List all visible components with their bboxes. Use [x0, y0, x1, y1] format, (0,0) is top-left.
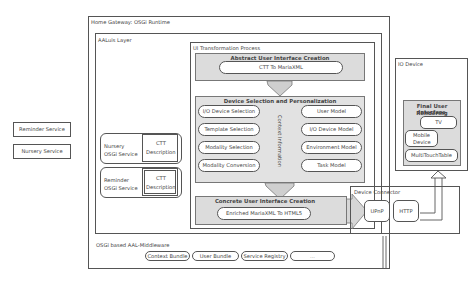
modality-conversion-step: Modality Conversion — [198, 159, 260, 172]
more-bundles[interactable]: ... — [290, 251, 335, 261]
io-device-selection-step: I/O Device Selection — [198, 105, 260, 118]
device-connector-title: Device Connector — [354, 189, 400, 195]
device-selection-title: Device Selection and Personalization — [195, 98, 365, 104]
task-model: Task Model — [301, 159, 362, 172]
concrete-ui-title: Concrete User Interface Creation — [195, 198, 335, 204]
user-bundle[interactable]: User Bundle — [192, 251, 239, 261]
template-selection-step: Template Selection — [198, 123, 260, 136]
io-device-model: I/O Device Model — [301, 123, 362, 136]
context-bundle[interactable]: Context Bundle — [145, 251, 190, 261]
context-information-label: Context Information — [277, 115, 283, 165]
environment-model: Environment Model — [301, 141, 362, 154]
middleware-title: OSGi based AAL-Middleware — [96, 242, 169, 248]
multitouch-table-device: MultiTouchTable — [405, 149, 458, 162]
io-device-title: IO Device — [398, 61, 423, 67]
mobile-device-label-1: Mobile — [413, 132, 430, 138]
tv-device: TV — [420, 116, 457, 129]
upnp-protocol: UPnP — [364, 200, 390, 222]
enriched-mariaxml-step: Enriched MariaXML To HTML5 — [217, 207, 311, 220]
user-model: User Model — [301, 105, 362, 118]
modality-selection-step: Modality Selection — [198, 141, 260, 154]
service-registry[interactable]: Service Registry — [241, 251, 288, 261]
http-protocol: HTTP — [393, 200, 419, 222]
mobile-device-label-2: Device — [413, 139, 431, 145]
